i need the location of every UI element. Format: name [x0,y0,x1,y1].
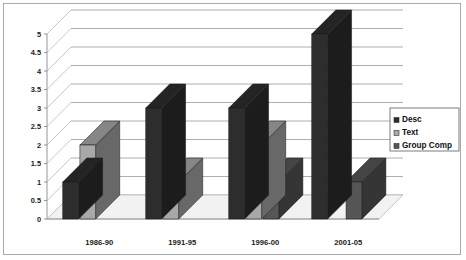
y-tick-label: 1 [37,178,41,187]
x-category-label: 1996-00 [251,238,279,247]
bar-desc [229,84,269,219]
y-tick-label: 5 [37,30,41,39]
chart-plot-area: 00.511.522.533.544.55 1986-901991-951996… [4,4,462,256]
bar-desc [312,10,352,219]
legend-swatch-icon [394,144,399,149]
y-tick-label: 0 [37,215,41,224]
legend-swatch-icon [394,118,399,123]
y-tick-label: 4.5 [31,48,41,57]
legend-swatch-icon [394,131,399,136]
y-tick-label: 0.5 [31,196,41,205]
legend-item-label: Text [402,128,418,137]
x-axis-labels: 1986-901991-951996-002001-05 [85,238,363,247]
x-category-label: 1986-90 [85,238,113,247]
y-tick-label: 4 [37,67,42,76]
legend-item-label: Group Comp [402,141,452,150]
y-tick-label: 3 [37,104,41,113]
bar-desc [146,84,186,219]
y-tick-label: 2.5 [31,122,41,131]
bar-chart-svg: 00.511.522.533.544.55 1986-901991-951996… [4,4,462,256]
chart-legend[interactable]: DescTextGroup Comp [390,108,459,151]
y-tick-label: 1.5 [31,159,41,168]
y-tick-label: 3.5 [31,85,41,94]
legend-item-label: Desc [402,115,422,124]
chart-frame: 00.511.522.533.544.55 1986-901991-951996… [3,3,461,255]
x-category-label: 2001-05 [334,238,363,247]
y-tick-label: 2 [37,141,41,150]
legend-item-group-comp[interactable]: Group Comp [394,141,452,150]
bars-group [63,10,386,219]
y-axis-ticks: 00.511.522.533.544.55 [31,30,47,224]
x-category-label: 1991-95 [168,238,197,247]
